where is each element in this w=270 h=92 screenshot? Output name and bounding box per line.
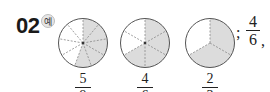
numerator: 5 (73, 72, 93, 86)
fraction-label-1: 5 9 (73, 72, 93, 92)
answer-denominator: 6 (246, 32, 260, 47)
answer-fraction: 4 6 (246, 14, 260, 47)
numerator: 4 (135, 72, 155, 86)
fraction-label-2: 4 6 (135, 72, 155, 92)
answer-comma: , (261, 32, 265, 50)
problem-number: 02 (16, 13, 39, 39)
fraction-circle-1 (57, 17, 109, 69)
fraction-circle-3 (184, 17, 236, 69)
numerator: 2 (200, 72, 220, 86)
example-badge: 예 (41, 14, 55, 28)
denominator: 3 (200, 89, 220, 92)
denominator: 9 (73, 89, 93, 92)
answer-separator: ; (236, 24, 240, 42)
fraction-label-3: 2 3 (200, 72, 220, 92)
denominator: 6 (135, 89, 155, 92)
fraction-circle-2 (119, 17, 171, 69)
answer-numerator: 4 (246, 14, 260, 29)
